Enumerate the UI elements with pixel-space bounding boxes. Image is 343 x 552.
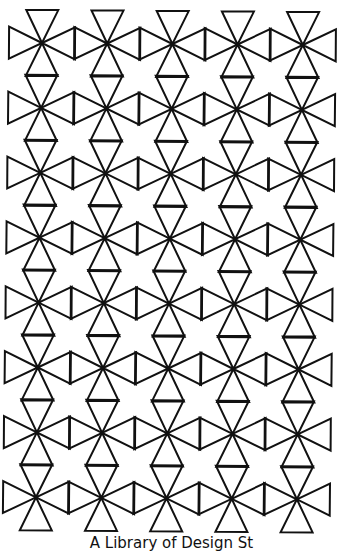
bowtie-star [68, 465, 134, 531]
bowtie-star [5, 334, 71, 400]
bowtie-star [4, 399, 70, 465]
bowtie-star [8, 75, 74, 141]
bowtie-star [71, 270, 137, 336]
bowtie-star [139, 11, 205, 77]
bowtie-star [264, 466, 330, 532]
bowtie-star [204, 76, 270, 142]
bowtie-star [136, 271, 202, 337]
bowtie-star [269, 77, 335, 143]
bowtie-star [3, 464, 69, 530]
bowtie-star [265, 401, 331, 467]
bowtie-star [72, 140, 138, 206]
bowtie-star [268, 142, 334, 208]
caption: A Library of Design St [0, 534, 343, 552]
bowtie-star [69, 400, 135, 466]
bowtie-star [70, 335, 136, 401]
bowtie-star [6, 205, 72, 271]
bowtie-star [137, 206, 203, 272]
bowtie-star [134, 400, 200, 466]
bowtie-star [138, 76, 204, 142]
bowtie-star [9, 10, 75, 76]
bowtie-star [138, 141, 204, 207]
bowtie-star [202, 206, 268, 272]
bowtie-star [267, 207, 333, 273]
bowtie-star [72, 205, 138, 271]
bowtie-star [74, 10, 140, 76]
bowtie-star [200, 336, 266, 402]
bowtie-star [135, 335, 201, 401]
bowtie-star [73, 75, 139, 141]
bowtie-star [203, 141, 269, 207]
bowtie-star [205, 11, 271, 77]
bowtie-star [7, 140, 73, 206]
bowtie-star [201, 271, 267, 337]
bowtie-star [266, 272, 332, 338]
bowtie-star [265, 336, 331, 402]
bowtie-star [133, 465, 199, 531]
bowtie-star [6, 270, 72, 336]
bowtie-star [199, 466, 265, 532]
bowtie-star [199, 401, 265, 467]
bowtie-star [270, 12, 336, 78]
